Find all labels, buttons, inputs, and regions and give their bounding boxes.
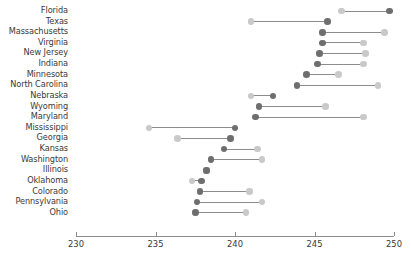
end-value-dot — [360, 61, 367, 68]
connector-line — [197, 202, 262, 203]
plot-area: FloridaTexasMassachusettsVirginiaNew Jer… — [0, 0, 411, 262]
start-value-dot — [270, 93, 277, 100]
x-axis-tick-label: 250 — [386, 239, 402, 249]
start-value-dot — [319, 40, 326, 47]
connector-line — [200, 191, 249, 192]
connector-line — [211, 159, 262, 160]
x-axis-tick — [394, 232, 395, 236]
end-value-dot — [322, 103, 329, 110]
connector-line — [322, 42, 363, 43]
end-value-dot — [375, 82, 382, 89]
category-label: Colorado — [0, 187, 68, 196]
start-value-dot — [192, 209, 199, 216]
category-label: Mississippi — [0, 123, 68, 132]
connector-line — [322, 32, 384, 33]
category-label: Washington — [0, 155, 68, 164]
end-value-dot — [248, 18, 255, 25]
start-value-dot — [314, 61, 321, 68]
category-label: Texas — [0, 17, 68, 26]
start-value-dot — [324, 18, 331, 25]
end-value-dot — [146, 125, 153, 132]
x-axis-tick — [315, 232, 316, 236]
x-axis-tick-label: 235 — [148, 239, 164, 249]
category-label: Wyoming — [0, 102, 68, 111]
start-value-dot — [256, 103, 263, 110]
category-label: Ohio — [0, 208, 68, 217]
x-axis-line — [76, 236, 394, 237]
x-axis-tick — [235, 232, 236, 236]
start-value-dot — [197, 188, 204, 195]
end-value-dot — [338, 8, 345, 15]
start-value-dot — [194, 199, 201, 206]
category-label: New Jersey — [0, 48, 68, 57]
category-label: Maryland — [0, 112, 68, 121]
end-value-dot — [360, 114, 367, 121]
end-value-dot — [381, 29, 388, 36]
start-value-dot — [252, 114, 259, 121]
end-value-dot — [189, 178, 196, 185]
connector-line — [195, 212, 246, 213]
category-label: Virginia — [0, 38, 68, 47]
x-axis-tick — [76, 232, 77, 236]
category-label: Indiana — [0, 59, 68, 68]
category-label: Massachusetts — [0, 27, 68, 36]
x-axis-tick — [156, 232, 157, 236]
end-value-dot — [362, 50, 369, 57]
connector-line — [251, 21, 327, 22]
category-label: Florida — [0, 6, 68, 15]
connector-line — [307, 74, 339, 75]
start-value-dot — [227, 135, 234, 142]
start-value-dot — [319, 29, 326, 36]
category-label: Kansas — [0, 144, 68, 153]
connector-line — [318, 64, 364, 65]
connector-line — [256, 117, 364, 118]
end-value-dot — [335, 71, 342, 78]
x-axis-tick-label: 245 — [307, 239, 323, 249]
category-label: Georgia — [0, 133, 68, 142]
start-value-dot — [203, 167, 210, 174]
x-axis-tick-label: 230 — [68, 239, 84, 249]
start-value-dot — [303, 71, 310, 78]
category-label: Nebraska — [0, 91, 68, 100]
start-value-dot — [316, 50, 323, 57]
end-value-dot — [246, 188, 253, 195]
end-value-dot — [254, 146, 261, 153]
end-value-dot — [259, 199, 266, 206]
x-axis-tick-label: 240 — [227, 239, 243, 249]
start-value-dot — [208, 156, 215, 163]
start-value-dot — [294, 82, 301, 89]
end-value-dot — [259, 156, 266, 163]
start-value-dot — [198, 178, 205, 185]
category-label: Minnesota — [0, 70, 68, 79]
connector-line — [297, 85, 378, 86]
connector-line — [178, 138, 230, 139]
start-value-dot — [221, 146, 228, 153]
connector-line — [149, 127, 235, 128]
start-value-dot — [232, 125, 239, 132]
start-value-dot — [386, 8, 393, 15]
dumbbell-chart: FloridaTexasMassachusettsVirginiaNew Jer… — [0, 0, 411, 262]
category-label: North Carolina — [0, 80, 68, 89]
category-label: Illinois — [0, 165, 68, 174]
end-value-dot — [243, 209, 250, 216]
end-value-dot — [248, 93, 255, 100]
end-value-dot — [360, 40, 367, 47]
connector-line — [259, 106, 326, 107]
category-label: Pennsylvania — [0, 197, 68, 206]
connector-line — [342, 11, 390, 12]
end-value-dot — [174, 135, 181, 142]
category-label: Oklahoma — [0, 176, 68, 185]
connector-line — [224, 149, 257, 150]
connector-line — [319, 53, 365, 54]
